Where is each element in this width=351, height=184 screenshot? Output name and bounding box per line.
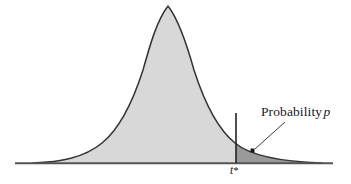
probability-label-word: Probability [261, 104, 322, 119]
distribution-chart-canvas [0, 0, 351, 184]
critical-value-label: t* [230, 164, 239, 176]
critical-value-star: * [233, 164, 239, 176]
probability-label: Probabilityp [261, 104, 330, 120]
probability-leader-line [255, 122, 285, 149]
probability-label-variable: p [322, 104, 330, 119]
tail-probability-figure: Probabilityp t* [0, 0, 351, 184]
probability-leader-dot [251, 149, 255, 153]
main-distribution-area [33, 6, 322, 163]
